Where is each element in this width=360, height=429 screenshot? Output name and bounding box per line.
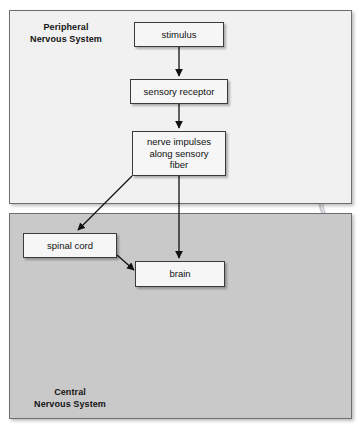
nerve-impulses-box[interactable]: nerve impulses along sensory fiber	[132, 131, 226, 176]
nervous-system-diagram: stimulus sensory receptor nerve impulses…	[0, 0, 360, 429]
sensory-receptor-box[interactable]: sensory receptor	[130, 79, 228, 104]
peripheral-nervous-system-caption: Peripheral Nervous System	[18, 21, 114, 45]
central-nervous-system-caption: Central Nervous System	[22, 386, 118, 410]
spinal-cord-box[interactable]: spinal cord	[23, 233, 117, 258]
stimulus-box[interactable]: stimulus	[134, 22, 224, 47]
brain-box[interactable]: brain	[135, 261, 225, 287]
